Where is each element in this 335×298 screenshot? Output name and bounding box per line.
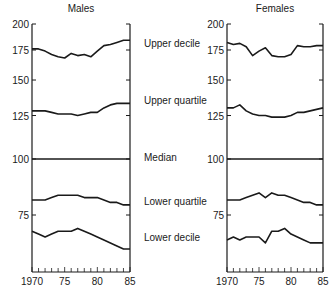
y-tick-label: 150 xyxy=(207,75,224,86)
series-label-lower-quartile: Lower quartile xyxy=(144,196,207,207)
males-upper-decile-line xyxy=(32,40,130,58)
series-label-median: Median xyxy=(144,152,177,163)
series-label-upper-quartile: Upper quartile xyxy=(144,95,207,106)
y-tick-label: 175 xyxy=(207,45,224,56)
panel-females: Females200175150125100751970758085 xyxy=(207,3,329,287)
y-tick-label: 125 xyxy=(207,111,224,122)
females-lower-quartile-line xyxy=(227,193,323,205)
males-lower-quartile-line xyxy=(32,195,130,205)
x-tick-label: 85 xyxy=(317,276,329,287)
y-tick-label: 200 xyxy=(12,19,29,30)
y-tick-label: 125 xyxy=(12,111,29,122)
x-tick-label: 1970 xyxy=(216,276,239,287)
y-tick-label: 150 xyxy=(12,75,29,86)
x-tick-label: 80 xyxy=(285,276,297,287)
females-upper-decile-line xyxy=(227,42,323,56)
x-tick-label: 75 xyxy=(253,276,265,287)
series-labels: Upper decileUpper quartileMedianLower qu… xyxy=(144,38,207,243)
series-label-lower-decile: Lower decile xyxy=(144,232,201,243)
y-tick-label: 100 xyxy=(12,154,29,165)
x-tick-label: 85 xyxy=(124,276,136,287)
x-tick-label: 1970 xyxy=(21,276,44,287)
y-tick-label: 100 xyxy=(207,154,224,165)
panel-males: Males200175150125100751970758085 xyxy=(12,3,136,287)
females-lower-decile-line xyxy=(227,228,323,243)
x-tick-label: 80 xyxy=(92,276,104,287)
y-tick-label: 75 xyxy=(18,210,30,221)
males-lower-decile-line xyxy=(32,228,130,249)
y-tick-label: 175 xyxy=(12,45,29,56)
chart-area: Males200175150125100751970758085 Females… xyxy=(0,0,335,298)
y-tick-label: 200 xyxy=(207,19,224,30)
females-panel-title: Females xyxy=(256,3,294,14)
males-upper-quartile-line xyxy=(32,103,130,115)
females-upper-quartile-line xyxy=(227,105,323,117)
y-tick-label: 75 xyxy=(213,210,225,221)
x-tick-label: 75 xyxy=(59,276,71,287)
males-panel-title: Males xyxy=(68,3,95,14)
series-label-upper-decile: Upper decile xyxy=(144,38,201,49)
